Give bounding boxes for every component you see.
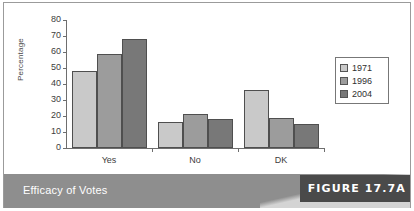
legend-swatch-2004 [340,90,348,98]
y-tick-label: 30 [51,94,61,104]
figure-container: Percentage 01020304050607080 YesNoDK 197… [0,0,414,211]
legend-swatch-1996 [340,77,348,85]
legend-label: 2004 [352,89,372,99]
legend-swatch-1971 [340,64,348,72]
y-tick-label: 40 [51,78,61,88]
y-tick-mark [63,148,66,149]
bar-no-1971 [158,122,183,148]
bar-dk-1971 [244,90,269,148]
y-tick-label: 70 [51,30,61,40]
bar-no-1996 [183,114,208,148]
y-tick-label: 10 [51,126,61,136]
y-tick-mark [63,36,66,37]
y-tick-mark [63,52,66,53]
figure-number-label: FIGURE 17.7A [308,182,406,195]
x-axis-separator [238,148,239,152]
x-axis-separator [152,148,153,152]
y-tick-mark [63,84,66,85]
y-tick-label: 60 [51,46,61,56]
legend-item: 1996 [340,74,385,87]
y-tick-mark [63,20,66,21]
y-tick-mark [63,116,66,117]
bar-yes-2004 [122,39,147,148]
x-axis-label-dk: DK [275,155,288,165]
plot-region [66,20,324,148]
legend-label: 1971 [352,63,372,73]
figure-caption: Efficacy of Votes [23,184,108,196]
y-axis-title: Percentage [16,10,25,110]
caption-bar: Efficacy of Votes FIGURE 17.7A [4,174,410,208]
y-tick-label: 50 [51,62,61,72]
y-tick-label: 80 [51,14,61,24]
legend-label: 1996 [352,76,372,86]
bar-yes-1971 [72,71,97,148]
y-tick-label: 20 [51,110,61,120]
x-axis-label-no: No [189,155,201,165]
bar-dk-2004 [294,124,319,148]
y-tick-mark [63,100,66,101]
legend-item: 1971 [340,61,385,74]
chart-area: Percentage 01020304050607080 YesNoDK 197… [4,3,410,171]
bar-dk-1996 [269,118,294,148]
figure-number-badge: FIGURE 17.7A [300,175,410,202]
y-tick-mark [63,132,66,133]
x-axis-line [66,148,325,149]
bar-no-2004 [208,119,233,148]
x-axis-separator [324,148,325,152]
bar-yes-1996 [97,54,122,148]
y-tick-label: 0 [56,142,61,152]
y-tick-mark [63,68,66,69]
legend-item: 2004 [340,87,385,100]
chart-legend: 1971 1996 2004 [335,57,389,104]
x-axis-label-yes: Yes [102,155,117,165]
